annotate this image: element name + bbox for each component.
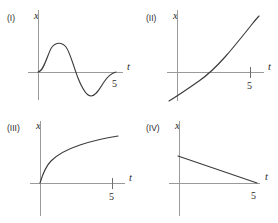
- x-axis-label-4: t: [265, 171, 269, 182]
- sqrt-curve-3: [40, 136, 118, 183]
- graph-panel-4: (IV) x 5 t: [139, 111, 278, 222]
- four-graph-figure: (I) x 5 t (II) x 5 t (III) x: [0, 0, 278, 223]
- panel-label-4: (IV): [146, 123, 160, 133]
- graph-panel-2: (II) x 5 t: [139, 0, 278, 111]
- graph-panel-1: (I) x 5 t: [0, 0, 139, 111]
- sine-curve-1: [38, 43, 116, 96]
- panel-label-2: (II): [146, 13, 157, 23]
- exponential-curve-2: [169, 16, 259, 101]
- x-axis-label-3: t: [129, 172, 133, 183]
- graph-panel-3: (III) x 5 t: [0, 111, 139, 222]
- decreasing-line-4: [178, 156, 257, 183]
- x-tick-label-5-panel-2: 5: [247, 80, 252, 91]
- x-tick-label-5-panel-3: 5: [109, 191, 114, 202]
- panel-label-1: (I): [7, 13, 15, 23]
- panel-label-3: (III): [7, 123, 20, 133]
- x-axis-label-2: t: [268, 61, 272, 72]
- x-tick-label-5-panel-1: 5: [112, 78, 117, 89]
- x-tick-label-5-panel-4: 5: [251, 190, 256, 201]
- x-axis-label-1: t: [127, 61, 131, 72]
